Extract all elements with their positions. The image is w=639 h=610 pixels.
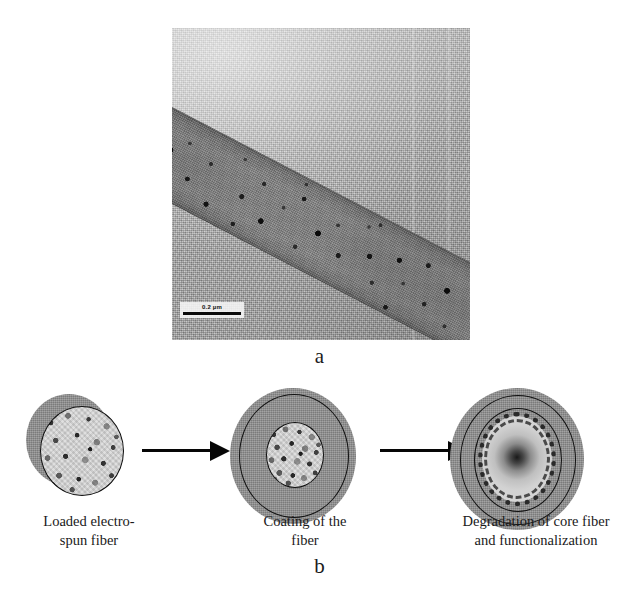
arrow-shaft [142,449,212,452]
panel-a-letter: a [0,344,639,368]
scale-bar: 0.2 µm [180,302,244,318]
arrow-stage1-to-stage2 [142,446,232,455]
caption-stage-3: Degradation of core fiber and functional… [424,512,639,549]
figure-root: 0.2 µm a [0,0,639,610]
panel-a-tem-micrograph: 0.2 µm [172,28,470,340]
scale-bar-label: 0.2 µm [183,304,241,311]
caption-stage-2: Coating of the fiber [216,512,394,549]
coated-loaded-core [266,422,324,488]
caption-stage-2-line-2: fiber [216,531,394,550]
caption-stage-3-line-1: Degradation of core fiber [424,512,639,531]
arrow-shaft [380,449,450,452]
arrow-head [210,441,230,461]
caption-stage-1: Loaded electro- spun fiber [0,512,178,549]
diagram-coated-fiber [228,386,378,526]
panel-b-letter: b [0,554,639,578]
functionalized-inner-ring [484,419,550,499]
micrograph-frame: 0.2 µm [172,28,470,340]
scale-bar-rule [183,312,241,315]
caption-stage-3-line-2: and functionalization [424,531,639,550]
diagram-loaded-fiber [18,386,158,516]
panel-b-process-schematic: Loaded electro- spun fiber Coating of th… [0,386,639,610]
caption-stage-1-line-2: spun fiber [0,531,178,550]
fiber-loaded-core [40,406,124,496]
caption-stage-2-line-1: Coating of the [216,512,394,531]
caption-stage-1-line-1: Loaded electro- [0,512,178,531]
diagram-degraded-fiber [448,386,608,532]
